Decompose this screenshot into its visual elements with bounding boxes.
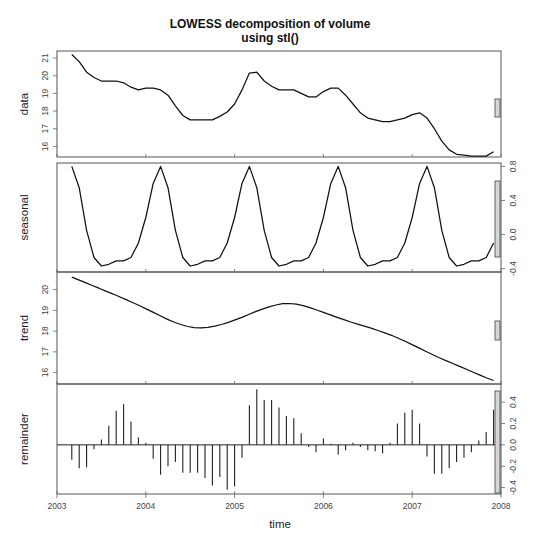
y-tick-label: 16: [40, 141, 50, 151]
y-axis-title-data: data: [18, 92, 30, 115]
x-tick-label: 2003: [48, 501, 67, 511]
panels-group: 161718192021data-0.40.00.40.8seasonal161…: [18, 51, 518, 495]
panel-remainder: -0.4-0.20.00.20.4remainder: [18, 384, 518, 495]
seasonal-line: [72, 166, 494, 266]
x-tick-label: 2007: [403, 501, 422, 511]
scale-bar: [495, 99, 500, 117]
y-tick-label: -0.4: [508, 480, 518, 495]
y-tick-label: -0.4: [508, 261, 518, 276]
panel-trend: 1617181920trend: [18, 272, 501, 384]
x-axis: 200320042005200620072008: [48, 494, 511, 511]
panel-frame: [57, 163, 501, 272]
y-tick-label: 18: [40, 106, 50, 116]
y-tick-label: 19: [40, 88, 50, 98]
x-tick-label: 2006: [314, 501, 333, 511]
panel-frame: [57, 272, 501, 384]
panel-frame: [57, 51, 501, 157]
chart-subtitle: using stl(): [241, 31, 298, 45]
y-tick-label: 17: [40, 124, 50, 134]
y-axis-title-seasonal: seasonal: [18, 194, 30, 240]
y-tick-label: 0.2: [508, 417, 518, 429]
scale-bar: [495, 181, 500, 257]
x-tick-label: 2008: [492, 501, 511, 511]
y-axis-title-remainder: remainder: [18, 413, 30, 465]
y-tick-label: 18: [40, 326, 50, 336]
chart-title: LOWESS decomposition of volume: [170, 17, 371, 31]
scale-bar: [495, 391, 500, 493]
stl-decomposition-chart: LOWESS decomposition of volume using stl…: [0, 0, 540, 545]
trend-line: [72, 277, 494, 380]
data-line: [72, 55, 494, 157]
y-tick-label: 17: [40, 347, 50, 357]
y-axis-title-trend: trend: [18, 315, 30, 341]
y-tick-label: 0.0: [508, 439, 518, 451]
y-tick-label: -0.2: [508, 459, 518, 474]
y-tick-label: 0.0: [508, 228, 518, 240]
y-tick-label: 16: [40, 368, 50, 378]
y-tick-label: 20: [40, 285, 50, 295]
y-tick-label: 21: [40, 53, 50, 63]
y-tick-label: 0.4: [508, 194, 518, 206]
panel-data: 161718192021data: [18, 51, 501, 157]
x-tick-label: 2005: [225, 501, 244, 511]
x-tick-label: 2004: [136, 501, 155, 511]
x-axis-title: time: [269, 518, 291, 530]
y-tick-label: 19: [40, 305, 50, 315]
y-tick-label: 0.4: [508, 396, 518, 408]
y-tick-label: 20: [40, 71, 50, 81]
scale-bar: [495, 321, 500, 340]
panel-seasonal: -0.40.00.40.8seasonal: [18, 160, 518, 276]
y-tick-label: 0.8: [508, 160, 518, 172]
